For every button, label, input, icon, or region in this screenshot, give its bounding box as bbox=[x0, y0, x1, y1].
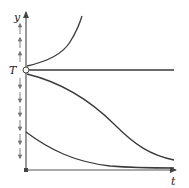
arrow-down-icon bbox=[18, 134, 21, 145]
arrow-down-icon bbox=[18, 148, 21, 159]
t-axis-label: t bbox=[171, 175, 176, 188]
arrow-up-icon bbox=[18, 38, 21, 49]
phase-arrows-down bbox=[18, 78, 21, 159]
solution-curves-diagram: y t T bbox=[0, 0, 189, 188]
arrow-down-icon bbox=[18, 78, 21, 89]
equilibrium-point bbox=[23, 67, 29, 73]
arrow-down-icon bbox=[18, 106, 21, 117]
arrow-down-icon bbox=[18, 92, 21, 103]
y-axis-label: y bbox=[13, 11, 21, 24]
origin-marker bbox=[24, 168, 28, 172]
arrow-up-icon bbox=[18, 52, 21, 63]
arrow-down-icon bbox=[18, 120, 21, 131]
curve-low-initial bbox=[26, 132, 174, 168]
phase-arrows-up bbox=[18, 24, 21, 63]
curve-above-equilibrium bbox=[27, 16, 82, 66]
arrow-up-icon bbox=[18, 24, 21, 35]
equilibrium-label: T bbox=[9, 64, 18, 77]
